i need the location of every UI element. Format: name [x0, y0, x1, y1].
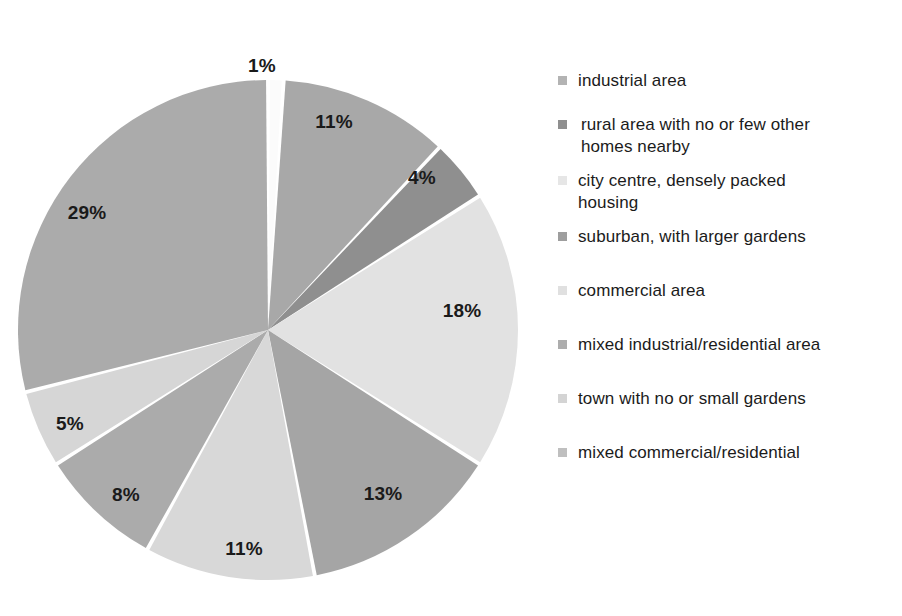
pie-slice-value-label: 5% [56, 413, 84, 435]
pie-slice-group [18, 80, 518, 580]
legend-item-label: mixed commercial/residential [578, 442, 800, 464]
legend-item[interactable]: rural area with no or few other homes ne… [558, 114, 902, 158]
legend-item-label: suburban, with larger gardens [578, 226, 806, 248]
legend-swatch-icon [558, 286, 567, 295]
legend-item[interactable]: mixed commercial/residential [558, 442, 902, 464]
legend-item[interactable]: town with no or small gardens [558, 388, 902, 410]
legend-item-label: city centre, densely packed housing [578, 170, 786, 214]
pie-chart-plot-area: 1%11%4%18%13%11%8%5%29% [0, 0, 540, 616]
pie-slice-value-label: 1% [248, 55, 276, 77]
legend-item-label: rural area with no or few other homes ne… [581, 114, 810, 158]
legend-item[interactable]: mixed industrial/residential area [558, 334, 902, 356]
legend-item-label: mixed industrial/residential area [578, 334, 820, 356]
legend-swatch-icon [558, 340, 567, 349]
pie-slice-value-label: 18% [443, 300, 482, 322]
legend-item[interactable]: suburban, with larger gardens [558, 226, 902, 248]
legend-item-label: commercial area [578, 280, 705, 302]
chart-legend: industrial arearural area with no or few… [558, 70, 902, 464]
legend-swatch-icon [558, 176, 567, 185]
legend-item[interactable]: commercial area [558, 280, 902, 302]
legend-item[interactable]: city centre, densely packed housing [558, 170, 902, 214]
legend-swatch-icon [558, 120, 567, 129]
pie-slice-value-label: 8% [112, 484, 140, 506]
pie-chart-figure: 1%11%4%18%13%11%8%5%29% industrial arear… [0, 0, 902, 616]
legend-swatch-icon [558, 232, 567, 241]
legend-item[interactable]: industrial area [558, 70, 902, 92]
legend-swatch-icon [558, 76, 567, 85]
legend-item-label: town with no or small gardens [578, 388, 806, 410]
legend-swatch-icon [558, 448, 567, 457]
legend-swatch-icon [558, 394, 567, 403]
pie-slice-value-label: 4% [408, 167, 436, 189]
pie-slice-value-label: 11% [315, 111, 353, 133]
pie-slice-value-label: 29% [68, 202, 107, 224]
pie-slice-value-label: 13% [364, 483, 403, 505]
legend-item-label: industrial area [578, 70, 686, 92]
pie-slice-value-label: 11% [225, 538, 263, 560]
